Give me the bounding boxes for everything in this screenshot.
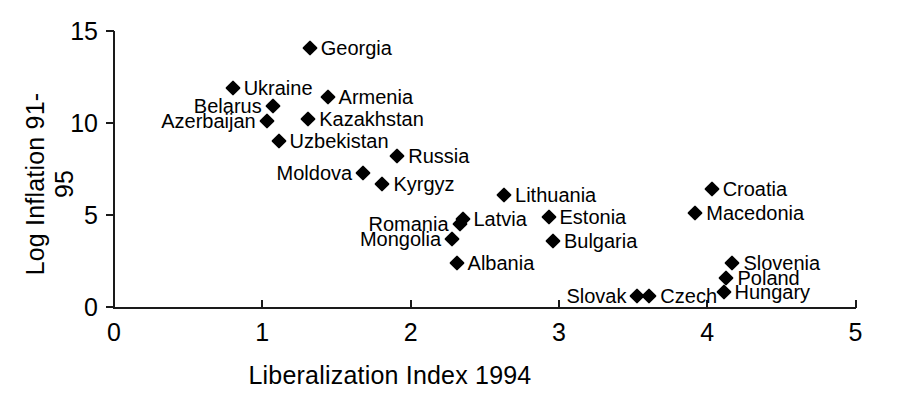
data-point-marker[interactable]	[704, 181, 720, 197]
x-axis-tick-label: 1	[242, 318, 282, 346]
y-axis-tick-label: 0	[38, 293, 98, 321]
x-axis-tick-label: 5	[836, 318, 876, 346]
data-point-marker[interactable]	[449, 255, 465, 271]
y-axis-line	[113, 31, 115, 309]
data-point-label: Georgia	[321, 37, 392, 59]
data-point-label: Lithuania	[515, 184, 596, 206]
data-point-marker[interactable]	[300, 112, 316, 128]
data-point-label: Kyrgyz	[393, 173, 454, 195]
data-point-label: Armenia	[339, 86, 413, 108]
data-point-label: Bulgaria	[564, 230, 637, 252]
data-point-label: Kazakhstan	[319, 108, 424, 130]
data-point-label: Azerbaijan	[161, 110, 256, 132]
x-axis-tick	[261, 300, 263, 308]
y-axis-tick-label: 15	[38, 17, 98, 45]
data-point-label: Estonia	[560, 206, 627, 228]
x-axis-tick	[855, 300, 857, 308]
data-point-marker[interactable]	[265, 99, 281, 115]
x-axis-tick-label: 2	[391, 318, 431, 346]
data-point-label: Latvia	[474, 208, 527, 230]
data-point-label: Mongolia	[360, 228, 441, 250]
data-point-marker[interactable]	[545, 233, 561, 249]
scatter-plot-figure: 012345 051015 GeorgiaUkraineArmeniaBelar…	[0, 0, 901, 401]
data-point-label: Slovak	[566, 285, 626, 307]
data-point-marker[interactable]	[389, 148, 405, 164]
x-axis-tick-label: 3	[539, 318, 579, 346]
data-point-marker[interactable]	[355, 165, 371, 181]
data-point-marker[interactable]	[375, 176, 391, 192]
x-axis-tick-label: 4	[687, 318, 727, 346]
data-point-marker[interactable]	[716, 284, 732, 300]
data-point-marker[interactable]	[496, 187, 512, 203]
data-point-label: Moldova	[277, 162, 353, 184]
data-point-label: Croatia	[723, 178, 787, 200]
x-axis-tick	[410, 300, 412, 308]
y-axis-tick	[106, 306, 114, 308]
data-point-marker[interactable]	[688, 205, 704, 221]
data-point-label: Uzbekistan	[290, 130, 389, 152]
data-point-marker[interactable]	[225, 80, 241, 96]
data-point-label: Albania	[468, 252, 535, 274]
data-point-marker[interactable]	[642, 288, 658, 304]
y-axis-tick	[106, 214, 114, 216]
data-point-label: Macedonia	[706, 202, 804, 224]
data-point-marker[interactable]	[719, 270, 735, 286]
data-point-label: Russia	[408, 145, 469, 167]
x-axis-line	[114, 307, 856, 309]
y-axis-tick	[106, 122, 114, 124]
x-axis-tick-label: 0	[94, 318, 134, 346]
y-axis-title: Log Inflation 91-95	[21, 86, 79, 282]
data-point-label: Hungary	[735, 281, 811, 303]
data-point-marker[interactable]	[271, 134, 287, 150]
data-point-marker[interactable]	[541, 209, 557, 225]
data-point-marker[interactable]	[320, 89, 336, 105]
data-point-label: Czech	[660, 285, 717, 307]
y-axis-tick	[106, 30, 114, 32]
x-axis-title: Liberalization Index 1994	[0, 361, 780, 390]
x-axis-tick	[558, 300, 560, 308]
data-point-marker[interactable]	[302, 40, 318, 56]
